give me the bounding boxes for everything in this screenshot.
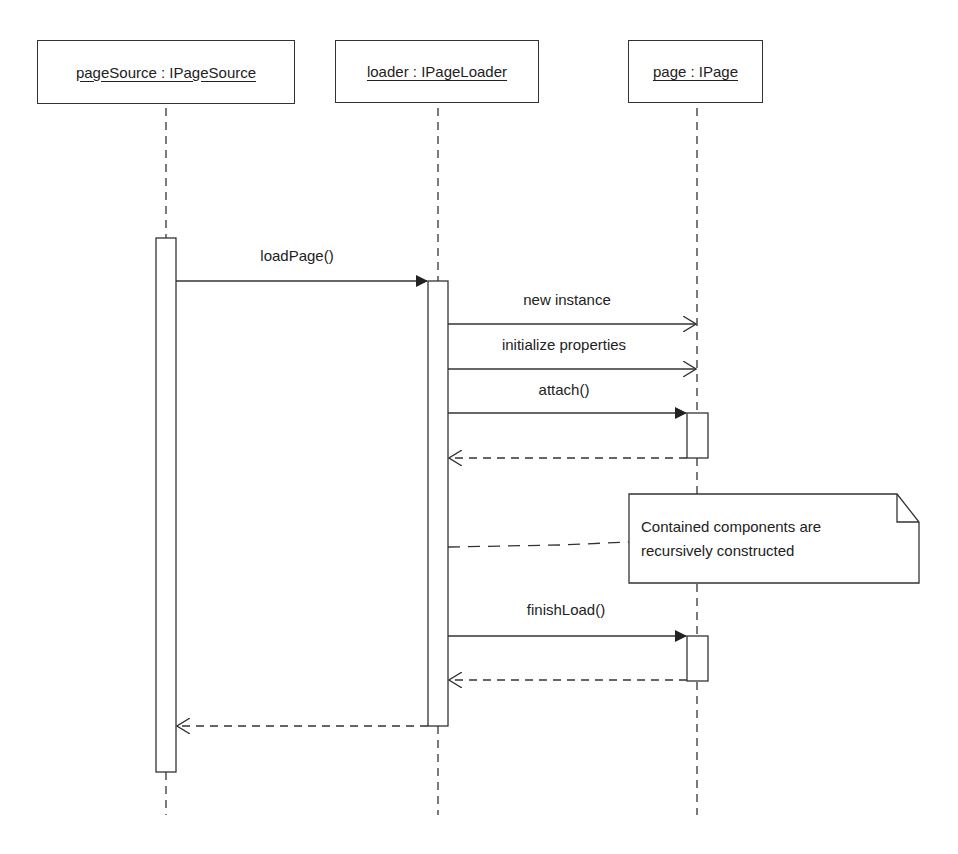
- message-loadpage-label: loadPage(): [260, 247, 333, 264]
- activation-pagesource: [156, 238, 176, 772]
- activation-loader: [428, 281, 448, 726]
- note-connector: [448, 542, 629, 547]
- note-line-2: recursively constructed: [641, 539, 821, 563]
- activation-page-attach: [687, 413, 708, 458]
- message-finishload-label: finishLoad(): [527, 601, 605, 618]
- message-initialize-properties-label: initialize properties: [502, 336, 626, 353]
- message-new-instance-label: new instance: [523, 291, 611, 308]
- participant-page-label: page : IPage: [653, 63, 738, 80]
- note-line-1: Contained components are: [641, 515, 821, 539]
- activation-page-finishload: [687, 636, 708, 681]
- participant-pagesource-label: pageSource : IPageSource: [76, 64, 256, 81]
- participant-loader: loader : IPageLoader: [335, 40, 539, 103]
- sequence-diagram-canvas: [0, 0, 958, 854]
- message-attach-label: attach(): [539, 381, 590, 398]
- participant-page: page : IPage: [628, 40, 763, 103]
- participant-pagesource: pageSource : IPageSource: [37, 40, 295, 104]
- note-text: Contained components are recursively con…: [641, 515, 821, 563]
- participant-loader-label: loader : IPageLoader: [367, 63, 507, 80]
